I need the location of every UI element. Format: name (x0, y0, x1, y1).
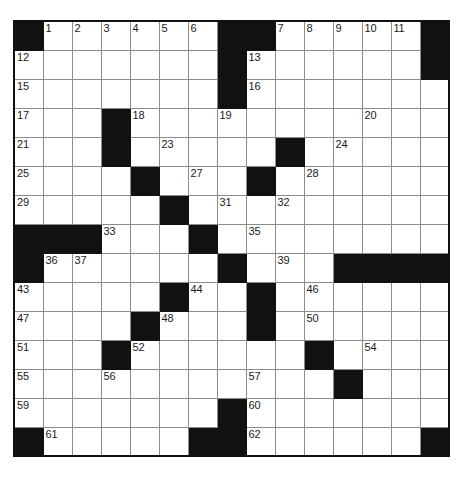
crossword-cell[interactable] (246, 253, 275, 282)
crossword-cell[interactable] (159, 398, 188, 427)
crossword-cell[interactable] (333, 340, 362, 369)
crossword-cell[interactable] (188, 369, 217, 398)
crossword-cell[interactable] (362, 282, 391, 311)
crossword-cell[interactable] (420, 137, 449, 166)
crossword-cell[interactable]: 15 (14, 79, 43, 108)
crossword-cell[interactable] (304, 137, 333, 166)
crossword-cell[interactable] (304, 427, 333, 456)
crossword-cell[interactable] (188, 137, 217, 166)
crossword-cell[interactable] (275, 369, 304, 398)
crossword-cell[interactable] (72, 311, 101, 340)
crossword-cell[interactable]: 25 (14, 166, 43, 195)
crossword-cell[interactable] (130, 224, 159, 253)
crossword-cell[interactable] (275, 340, 304, 369)
crossword-cell[interactable] (159, 166, 188, 195)
crossword-cell[interactable] (362, 79, 391, 108)
crossword-cell[interactable] (362, 166, 391, 195)
crossword-cell[interactable] (420, 79, 449, 108)
crossword-cell[interactable]: 54 (362, 340, 391, 369)
crossword-cell[interactable] (159, 369, 188, 398)
crossword-cell[interactable] (101, 398, 130, 427)
crossword-cell[interactable] (72, 108, 101, 137)
crossword-cell[interactable] (362, 398, 391, 427)
crossword-cell[interactable] (420, 340, 449, 369)
crossword-cell[interactable]: 57 (246, 369, 275, 398)
crossword-cell[interactable] (43, 369, 72, 398)
crossword-cell[interactable] (43, 50, 72, 79)
crossword-cell[interactable] (275, 166, 304, 195)
crossword-cell[interactable] (72, 369, 101, 398)
crossword-cell[interactable] (362, 369, 391, 398)
crossword-cell[interactable] (217, 166, 246, 195)
crossword-cell[interactable] (391, 79, 420, 108)
crossword-cell[interactable] (217, 224, 246, 253)
crossword-cell[interactable] (333, 427, 362, 456)
crossword-cell[interactable] (275, 398, 304, 427)
crossword-cell[interactable]: 8 (304, 21, 333, 50)
crossword-cell[interactable] (391, 340, 420, 369)
crossword-cell[interactable] (275, 427, 304, 456)
crossword-cell[interactable] (43, 195, 72, 224)
crossword-cell[interactable] (304, 108, 333, 137)
crossword-cell[interactable] (275, 224, 304, 253)
crossword-cell[interactable]: 47 (14, 311, 43, 340)
crossword-cell[interactable] (72, 427, 101, 456)
crossword-cell[interactable] (304, 50, 333, 79)
crossword-cell[interactable]: 21 (14, 137, 43, 166)
crossword-cell[interactable]: 27 (188, 166, 217, 195)
crossword-cell[interactable] (391, 195, 420, 224)
crossword-cell[interactable] (362, 137, 391, 166)
crossword-cell[interactable] (159, 427, 188, 456)
crossword-cell[interactable]: 43 (14, 282, 43, 311)
crossword-cell[interactable] (188, 50, 217, 79)
crossword-cell[interactable]: 60 (246, 398, 275, 427)
crossword-cell[interactable] (188, 195, 217, 224)
crossword-cell[interactable] (333, 282, 362, 311)
crossword-cell[interactable] (304, 224, 333, 253)
crossword-cell[interactable] (72, 166, 101, 195)
crossword-cell[interactable] (188, 311, 217, 340)
crossword-cell[interactable] (43, 108, 72, 137)
crossword-cell[interactable] (275, 50, 304, 79)
crossword-cell[interactable]: 52 (130, 340, 159, 369)
crossword-cell[interactable] (72, 79, 101, 108)
crossword-cell[interactable] (304, 195, 333, 224)
crossword-cell[interactable] (420, 224, 449, 253)
crossword-cell[interactable] (420, 282, 449, 311)
crossword-cell[interactable] (43, 398, 72, 427)
crossword-cell[interactable] (420, 195, 449, 224)
crossword-cell[interactable]: 31 (217, 195, 246, 224)
crossword-cell[interactable] (217, 137, 246, 166)
crossword-cell[interactable] (72, 137, 101, 166)
crossword-cell[interactable] (72, 50, 101, 79)
crossword-cell[interactable] (101, 79, 130, 108)
crossword-cell[interactable]: 5 (159, 21, 188, 50)
crossword-cell[interactable] (333, 108, 362, 137)
crossword-cell[interactable] (333, 311, 362, 340)
crossword-cell[interactable] (217, 282, 246, 311)
crossword-cell[interactable] (217, 311, 246, 340)
crossword-cell[interactable]: 48 (159, 311, 188, 340)
crossword-cell[interactable] (420, 108, 449, 137)
crossword-cell[interactable] (275, 311, 304, 340)
crossword-cell[interactable] (246, 195, 275, 224)
crossword-cell[interactable]: 17 (14, 108, 43, 137)
crossword-cell[interactable] (43, 340, 72, 369)
crossword-cell[interactable] (43, 311, 72, 340)
crossword-cell[interactable] (101, 195, 130, 224)
crossword-cell[interactable] (391, 108, 420, 137)
crossword-cell[interactable]: 4 (130, 21, 159, 50)
crossword-cell[interactable] (72, 282, 101, 311)
crossword-cell[interactable] (72, 340, 101, 369)
crossword-cell[interactable] (420, 166, 449, 195)
crossword-cell[interactable] (246, 108, 275, 137)
crossword-cell[interactable] (43, 166, 72, 195)
crossword-cell[interactable]: 13 (246, 50, 275, 79)
crossword-cell[interactable] (43, 79, 72, 108)
crossword-cell[interactable]: 6 (188, 21, 217, 50)
crossword-cell[interactable] (101, 427, 130, 456)
crossword-cell[interactable] (333, 195, 362, 224)
crossword-cell[interactable] (391, 50, 420, 79)
crossword-cell[interactable]: 50 (304, 311, 333, 340)
crossword-cell[interactable]: 10 (362, 21, 391, 50)
